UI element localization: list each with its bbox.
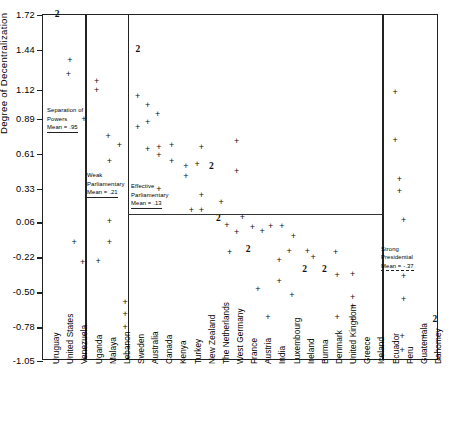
data-point: +	[277, 255, 282, 264]
x-category-label: Sweden	[137, 334, 146, 364]
y-tick-label: 0.33	[16, 184, 35, 194]
y-tick	[37, 119, 43, 120]
y-tick-label: -1.05	[13, 356, 35, 366]
data-point: +	[80, 258, 85, 267]
data-point-pair: 2	[322, 265, 327, 275]
data-point: +	[310, 253, 315, 262]
data-point: +	[199, 143, 204, 152]
group-divider	[382, 15, 383, 359]
x-category-label: Malaya	[109, 337, 118, 364]
data-point: +	[286, 247, 291, 256]
data-point: +	[268, 222, 273, 231]
data-point: +	[335, 313, 340, 322]
x-category-label: West Germany	[236, 308, 245, 364]
data-point: +	[169, 157, 174, 166]
group-mean-label: Mean = -.37	[381, 262, 431, 272]
x-category-label: New Zealand	[208, 315, 217, 364]
y-tick	[37, 154, 43, 155]
data-point: +	[122, 298, 127, 307]
group-name-label: Effective Parliamentary	[131, 182, 187, 199]
data-point-pair: 2	[216, 214, 221, 224]
data-point: +	[401, 294, 406, 303]
data-point: +	[219, 198, 224, 207]
group-mean-line	[128, 214, 383, 215]
data-point: +	[350, 269, 355, 278]
y-tick	[37, 189, 43, 190]
data-point: +	[96, 257, 101, 266]
data-point: +	[401, 272, 406, 281]
data-point-pair: 2	[432, 315, 437, 325]
data-point: +	[224, 220, 229, 229]
x-category-label: Venezuela	[80, 325, 89, 364]
x-category-label: Lebanon	[123, 331, 132, 364]
y-tick	[37, 222, 43, 223]
x-category-label: Burma	[321, 339, 330, 364]
data-point: +	[107, 217, 112, 226]
x-category-label: Turkey	[194, 339, 203, 364]
scatter-chart-figure: Degree of Decentralization 1.721.441.120…	[0, 0, 450, 440]
data-point: +	[234, 137, 239, 146]
x-category-label: India	[278, 346, 287, 364]
data-point: +	[277, 277, 282, 286]
x-category-label: Austria	[264, 338, 273, 364]
x-category-label: Ireland	[307, 338, 316, 364]
data-point-pair: 2	[209, 163, 214, 173]
y-tick-label: 0.61	[16, 149, 35, 159]
y-tick	[37, 90, 43, 91]
data-point: +	[107, 157, 112, 166]
data-point: +	[289, 290, 294, 299]
x-category-label: Denmark	[335, 330, 344, 364]
data-point: +	[393, 135, 398, 144]
data-point: +	[250, 223, 255, 232]
data-point: +	[94, 85, 99, 94]
data-point: +	[199, 190, 204, 199]
data-point: +	[397, 187, 402, 196]
x-category-label: Iceland	[377, 337, 386, 364]
y-tick-label: -0.22	[13, 252, 35, 262]
data-point: +	[234, 228, 239, 237]
group-mean-label: Mean = .13	[131, 199, 187, 209]
x-category-label: The Netherlands	[222, 302, 231, 364]
y-tick	[37, 15, 43, 16]
group-name-label: Weak Parliamentary	[87, 171, 133, 188]
data-point: +	[393, 88, 398, 97]
group-annotation: Strong PresidentialMean = -.37	[381, 245, 431, 272]
y-tick-label: -0.50	[13, 287, 35, 297]
y-tick	[37, 361, 43, 362]
x-category-label: France	[250, 338, 259, 364]
data-point: +	[260, 227, 265, 236]
data-point: +	[107, 238, 112, 247]
group-mean-label: Mean = .21	[87, 188, 133, 198]
data-point: +	[71, 238, 76, 247]
data-point-pair: 2	[246, 245, 251, 255]
data-point: +	[227, 248, 232, 257]
data-point: +	[135, 123, 140, 132]
y-tick-label: 1.72	[16, 10, 35, 20]
data-point: +	[335, 270, 340, 279]
y-tick-label: 1.44	[16, 45, 35, 55]
data-point: +	[155, 109, 160, 118]
data-point: +	[156, 150, 161, 159]
x-category-label: Peru	[406, 346, 415, 364]
x-category-label: Greece	[363, 337, 372, 364]
x-category-label: Ecuador	[392, 333, 401, 364]
y-tick	[37, 50, 43, 51]
x-category-label: Uganda	[95, 335, 104, 364]
data-point: +	[397, 174, 402, 183]
x-category-label: Dahomey	[434, 328, 443, 364]
data-point: +	[195, 159, 200, 168]
group-annotation: Weak ParliamentaryMean = .21	[87, 171, 133, 198]
data-point: +	[117, 140, 122, 149]
data-point: +	[401, 215, 406, 224]
data-point: +	[145, 100, 150, 109]
data-point: +	[183, 172, 188, 181]
data-point: +	[169, 140, 174, 149]
data-point-pair: 2	[135, 45, 140, 55]
x-category-label: United Kingdom	[349, 304, 358, 364]
data-point: +	[67, 55, 72, 64]
x-category-label: Kenya	[179, 340, 188, 364]
x-category-label: Canada	[165, 335, 174, 364]
y-axis-title: Degree of Decentralization	[0, 13, 9, 134]
x-category-label: Uruguay	[52, 332, 61, 364]
y-tick-label: 1.12	[16, 85, 35, 95]
